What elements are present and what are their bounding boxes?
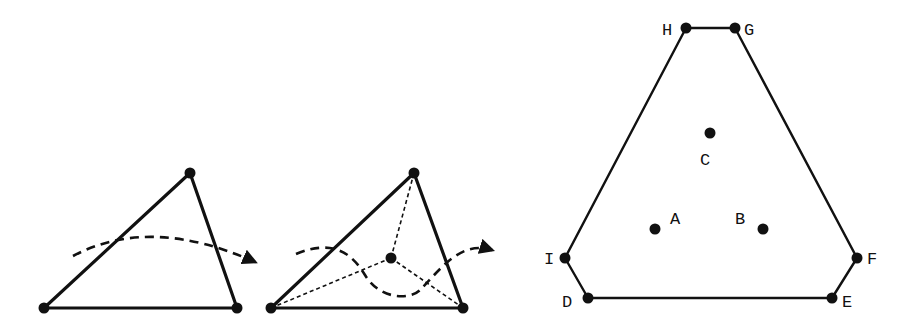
point-A-dot [650,224,661,235]
label-B: B [735,210,745,229]
center-dot [386,253,397,264]
left-panel [39,168,256,314]
label-A: A [670,210,681,229]
label-I: I [544,250,554,269]
point-C-dot [705,128,716,139]
right-panel: H G F E D I A B C [544,21,877,312]
vertex-dot [232,303,243,314]
vertex-G-dot [730,23,741,34]
label-F: F [867,250,877,269]
left-dashed-path [73,237,255,262]
vertex-dot [266,303,277,314]
vertex-dot [458,303,469,314]
label-C: C [700,151,710,170]
label-H: H [662,21,672,40]
vertex-I-dot [560,253,571,264]
label-D: D [562,293,572,312]
diagram-canvas: H G F E D I A B C [0,0,917,331]
point-B-dot [758,224,769,235]
vertex-dot [409,168,420,179]
left-triangle [44,173,237,308]
vertex-E-dot [827,293,838,304]
vertex-F-dot [852,253,863,264]
outer-polygon [565,28,857,298]
vertex-H-dot [681,23,692,34]
subdivision-line [271,258,391,308]
label-E: E [842,293,852,312]
vertex-D-dot [583,293,594,304]
vertex-dot [185,168,196,179]
vertex-dot [39,303,50,314]
middle-panel [266,168,493,314]
label-G: G [744,21,754,40]
